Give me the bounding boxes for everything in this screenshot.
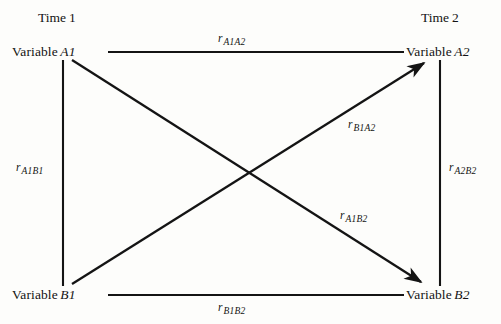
time-2-header: Time2 — [421, 10, 459, 26]
corr-a2b2-r: r — [449, 161, 453, 173]
time-2-number: 2 — [449, 10, 459, 25]
corr-b1b2-r: r — [218, 301, 222, 313]
corr-a1b2-r: r — [340, 209, 344, 221]
node-a2-symbol: A2 — [452, 44, 470, 59]
corr-b1a2-subscript: B1A2 — [353, 123, 375, 133]
node-variable-b1: VariableB1 — [12, 287, 75, 303]
edge-a1-b2-arrow — [72, 60, 421, 282]
corr-a1b1-subscript: A1B1 — [21, 166, 43, 176]
correlation-label-b1a2: rB1A2 — [348, 117, 374, 132]
corr-a2b2-subscript: A2B2 — [454, 166, 476, 176]
corr-a1a2-subscript: A1A2 — [223, 37, 245, 47]
correlation-label-a1b1: rA1B1 — [16, 160, 42, 175]
node-b2-text: Variable — [406, 287, 452, 302]
node-variable-a2: VariableA2 — [406, 44, 469, 60]
node-variable-b2: VariableB2 — [406, 287, 469, 303]
corr-a1b1-r: r — [16, 161, 20, 173]
node-a1-text: Variable — [12, 44, 58, 59]
diagram-canvas: Time1 Time2 VariableA1 VariableA2 Variab… — [0, 0, 501, 324]
node-variable-a1: VariableA1 — [12, 44, 75, 60]
corr-b1b2-subscript: B1B2 — [223, 306, 245, 316]
node-a1-symbol: A1 — [58, 44, 76, 59]
time-1-text: Time — [38, 10, 66, 25]
node-b1-symbol: B1 — [58, 287, 76, 302]
corr-a1a2-r: r — [218, 32, 222, 44]
correlation-label-b1b2: rB1B2 — [218, 300, 244, 315]
time-2-text: Time — [421, 10, 449, 25]
time-1-number: 1 — [66, 10, 76, 25]
correlation-label-a1b2: rA1B2 — [340, 208, 366, 223]
node-b1-text: Variable — [12, 287, 58, 302]
node-a2-text: Variable — [406, 44, 452, 59]
corr-b1a2-r: r — [348, 118, 352, 130]
corr-a1b2-subscript: A1B2 — [345, 214, 367, 224]
correlation-label-a1a2: rA1A2 — [218, 31, 244, 46]
correlation-label-a2b2: rA2B2 — [449, 160, 475, 175]
node-b2-symbol: B2 — [452, 287, 470, 302]
time-1-header: Time1 — [38, 10, 76, 26]
